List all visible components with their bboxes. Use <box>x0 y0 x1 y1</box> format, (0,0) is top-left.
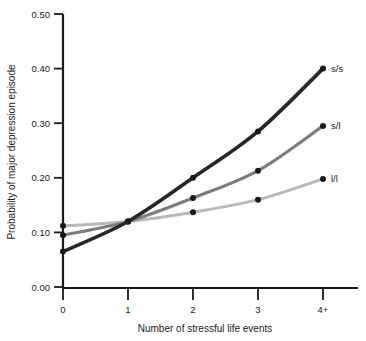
data-point <box>190 195 196 201</box>
data-point <box>320 176 326 182</box>
x-tick-label-4plus: 4+ <box>318 304 329 315</box>
y-tick-label-0.20: 0.20 <box>32 172 51 183</box>
line-chart: 0.50 0.40 0.30 0.20 0.10 0.00 0 1 2 3 4+… <box>0 0 366 341</box>
data-point <box>320 66 326 72</box>
x-axis-title: Number of stressful life events <box>138 323 273 334</box>
series-labels: s/ss/ll/l <box>331 63 343 184</box>
data-point <box>60 232 66 238</box>
series-label-s-l: s/l <box>331 120 341 131</box>
series-s-s <box>60 66 326 255</box>
data-point <box>190 209 196 215</box>
data-point <box>190 175 196 181</box>
line-l-l <box>63 179 323 226</box>
y-tick-label-0.10: 0.10 <box>32 227 51 238</box>
data-point <box>320 123 326 129</box>
y-tick-label-0.00: 0.00 <box>32 282 51 293</box>
y-tick-label-0.40: 0.40 <box>32 63 51 74</box>
series-label-s-s: s/s <box>331 63 343 74</box>
series-layer <box>60 66 326 255</box>
data-point <box>255 197 261 203</box>
x-tick-label-2: 2 <box>190 304 195 315</box>
chart-container: 0.50 0.40 0.30 0.20 0.10 0.00 0 1 2 3 4+… <box>0 0 366 341</box>
data-point <box>125 218 131 224</box>
x-tick-label-0: 0 <box>60 304 65 315</box>
series-label-l-l: l/l <box>331 173 338 184</box>
series-l-l <box>60 176 326 229</box>
x-tick-label-1: 1 <box>125 304 130 315</box>
y-axis-title: Probability of major depression episode <box>6 64 17 240</box>
data-point <box>60 223 66 229</box>
data-point <box>60 249 66 255</box>
data-point <box>255 168 261 174</box>
y-tick-label-0.30: 0.30 <box>32 118 51 129</box>
y-tick-label-0.50: 0.50 <box>32 9 51 20</box>
data-point <box>255 128 261 134</box>
x-tick-label-3: 3 <box>255 304 260 315</box>
